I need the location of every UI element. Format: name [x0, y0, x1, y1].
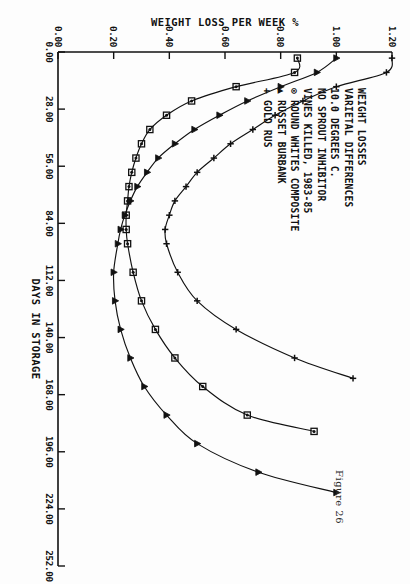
y-axis-title: WEIGHT LOSS PER WEEK %: [151, 16, 299, 28]
y-tick-label: 0.20: [108, 26, 119, 47]
figure-page: 0.0028.0056.0084.00112.00140.00168.00196…: [0, 0, 410, 584]
x-tick-label: 224.00: [44, 493, 55, 524]
figure-caption: Figure 26: [334, 470, 345, 524]
y-axis-ticks: [58, 52, 392, 59]
legend-annotation-line: 10.0 DEGREES C.: [329, 88, 340, 178]
legend-entry: ▲ RUSSET BURBANK: [276, 88, 287, 184]
legend-annotation-line: VARIETAL DIFFERENCES: [343, 88, 354, 208]
x-tick-label: 56.00: [44, 153, 55, 179]
y-tick-label: 1.20: [387, 26, 398, 47]
legend-annotation-line: WEIGHT LOSSES: [356, 88, 367, 166]
y-tick-label: 1.00: [331, 26, 342, 47]
chart-svg: 0.0028.0056.0084.00112.00140.00168.00196…: [0, 0, 410, 584]
y-tick-label: 0.60: [220, 26, 231, 47]
rotated-plot-wrapper: 0.0028.0056.0084.00112.00140.00168.00196…: [0, 0, 410, 584]
x-tick-label: 168.00: [44, 379, 55, 410]
x-tick-label: 28.00: [44, 96, 55, 122]
x-tick-label: 252.00: [44, 550, 55, 581]
y-tick-label: 0.00: [53, 26, 64, 47]
legend-block: WEIGHT LOSSESVARIETAL DIFFERENCES10.0 DE…: [262, 88, 367, 231]
x-tick-label: 112.00: [44, 265, 55, 296]
y-tick-label: 0.80: [275, 26, 286, 47]
x-axis-title: DAYS IN STORAGE: [30, 279, 42, 380]
x-axis-tick-labels: 0.0028.0056.0084.00112.00140.00168.00196…: [44, 42, 55, 582]
x-tick-label: 84.00: [44, 210, 55, 236]
legend-entry: ⊙ ROUND WHITES COMPOSITE: [289, 88, 300, 231]
y-axis-tick-labels: 0.000.200.400.600.801.001.20: [53, 26, 398, 47]
legend-entry: + GOLD RUS: [262, 88, 273, 148]
x-axis-ticks: [58, 52, 65, 566]
x-tick-label: 140.00: [44, 322, 55, 353]
legend-annotation-line: NO SPROUT INHIBITOR: [316, 88, 327, 202]
chart-plot: 0.0028.0056.0084.00112.00140.00168.00196…: [0, 0, 410, 584]
y-tick-label: 0.40: [164, 26, 175, 47]
legend-annotation-line: VINES KILLED, 1983-85: [302, 88, 313, 214]
x-tick-label: 196.00: [44, 436, 55, 467]
